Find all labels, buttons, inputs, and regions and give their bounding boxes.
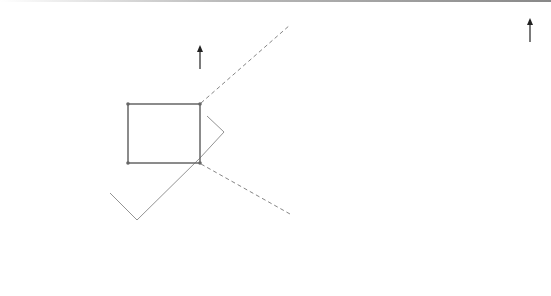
panel-a [110, 45, 224, 220]
north-arrow-icon [527, 18, 533, 42]
zoom-rect-corner [126, 161, 130, 165]
panel-a-zoom-rectangle [128, 104, 200, 163]
panel-a-y-axis-line [110, 193, 137, 220]
panel-b [527, 18, 533, 42]
zoom-connector-bottom [201, 164, 290, 214]
panel-a-x-axis-line [137, 116, 224, 220]
zoom-rect-corner [126, 102, 130, 106]
figure-canvas [0, 0, 551, 296]
north-arrow-icon [197, 45, 203, 69]
zoom-connector-top [201, 25, 290, 103]
